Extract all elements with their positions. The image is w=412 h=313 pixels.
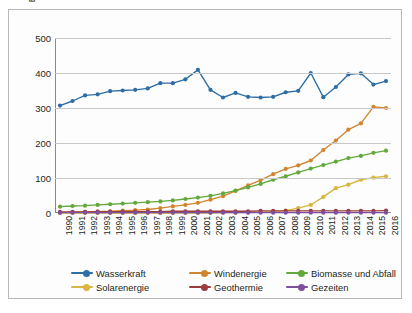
data-point: [121, 201, 125, 205]
x-tick-label-2015: 2015: [377, 216, 387, 256]
y-tick-label-300: 300: [21, 103, 51, 114]
data-point: [346, 183, 350, 187]
data-point: [309, 158, 313, 162]
data-point: [384, 79, 388, 83]
x-tick-label-2009: 2009: [302, 216, 312, 256]
y-axis-title-line1: Bruttostromerzeugung – EU-28: [15, 0, 27, 18]
data-point: [371, 82, 375, 86]
data-point: [271, 211, 275, 215]
legend-swatch-icon: [286, 282, 308, 292]
data-point: [158, 211, 162, 215]
data-point: [371, 151, 375, 155]
data-point: [133, 88, 137, 92]
data-point: [221, 95, 225, 99]
data-point: [246, 185, 250, 189]
chart-legend: WasserkraftWindenergieBiomasse und Abfal…: [71, 266, 401, 296]
data-point: [70, 211, 74, 215]
x-tick-label-2014: 2014: [365, 216, 375, 256]
x-tick-label-2000: 2000: [189, 216, 199, 256]
data-point: [58, 205, 62, 209]
data-point: [183, 197, 187, 201]
x-tick-label-1997: 1997: [152, 216, 162, 256]
y-tick-label-100: 100: [21, 173, 51, 184]
gridline-300: [55, 108, 391, 109]
data-point: [133, 201, 137, 205]
x-tick-label-1992: 1992: [89, 216, 99, 256]
data-point: [284, 211, 288, 215]
data-point: [321, 163, 325, 167]
data-point: [171, 204, 175, 208]
data-point: [233, 91, 237, 95]
x-axis-tick-labels: 1990199119921993199419951996199719981999…: [55, 216, 391, 260]
chart-figure: Bruttostromerzeugung – EU-28 Erneuerbare…: [8, 9, 402, 299]
data-point: [296, 170, 300, 174]
y-tick-label-0: 0: [21, 208, 51, 219]
x-tick-label-1994: 1994: [114, 216, 124, 256]
data-point: [146, 200, 150, 204]
data-point: [58, 211, 62, 215]
data-point: [246, 211, 250, 215]
data-point: [259, 211, 263, 215]
data-point: [221, 211, 225, 215]
gridline-500: [55, 38, 391, 39]
legend-item-gezeiten[interactable]: Gezeiten: [286, 280, 349, 294]
data-point: [384, 211, 388, 215]
y-tick-label-500: 500: [21, 33, 51, 44]
data-point: [221, 191, 225, 195]
legend-item-geothermie[interactable]: Geothermie: [189, 280, 263, 294]
data-point: [70, 204, 74, 208]
data-point: [96, 203, 100, 207]
data-point: [196, 201, 200, 205]
data-point: [309, 166, 313, 170]
x-tick-label-2010: 2010: [315, 216, 325, 256]
x-tick-label-1990: 1990: [64, 216, 74, 256]
data-point: [346, 128, 350, 132]
data-point: [133, 211, 137, 215]
data-point: [83, 204, 87, 208]
data-point: [208, 88, 212, 92]
data-point: [284, 167, 288, 171]
data-point: [108, 202, 112, 206]
data-point: [196, 211, 200, 215]
legend-swatch-icon: [189, 282, 211, 292]
data-point: [83, 211, 87, 215]
x-tick-label-2007: 2007: [277, 216, 287, 256]
data-point: [334, 186, 338, 190]
legend-swatch-icon: [71, 282, 93, 292]
data-point: [196, 68, 200, 72]
data-point: [233, 211, 237, 215]
legend-label: Geothermie: [214, 282, 263, 293]
x-tick-label-1995: 1995: [127, 216, 137, 256]
data-point: [158, 81, 162, 85]
data-point: [233, 189, 237, 193]
x-tick-label-1991: 1991: [77, 216, 87, 256]
x-tick-label-2001: 2001: [202, 216, 212, 256]
legend-label: Gezeiten: [311, 282, 349, 293]
data-point: [121, 211, 125, 215]
x-tick-label-2012: 2012: [340, 216, 350, 256]
data-point: [259, 95, 263, 99]
data-point: [321, 95, 325, 99]
x-tick-label-1993: 1993: [102, 216, 112, 256]
data-point: [359, 211, 363, 215]
data-point: [296, 163, 300, 167]
data-point: [196, 196, 200, 200]
series-windenergie: [58, 105, 388, 215]
data-point: [158, 199, 162, 203]
y-axis-tick-labels: 0100200300400500: [17, 38, 51, 213]
y-axis-title: Bruttostromerzeugung – EU-28 Erneuerbare…: [15, 0, 45, 18]
data-point: [108, 211, 112, 215]
legend-item-solarenergie[interactable]: Solarenergie: [71, 280, 149, 294]
x-tick-label-2013: 2013: [352, 216, 362, 256]
data-point: [96, 92, 100, 96]
data-point: [146, 86, 150, 90]
data-point: [309, 211, 313, 215]
data-point: [334, 85, 338, 89]
data-point: [146, 211, 150, 215]
x-tick-label-1996: 1996: [139, 216, 149, 256]
data-point: [321, 211, 325, 215]
plot-area: [55, 38, 391, 213]
data-point: [271, 95, 275, 99]
x-tick-label-2003: 2003: [227, 216, 237, 256]
data-point: [259, 182, 263, 186]
